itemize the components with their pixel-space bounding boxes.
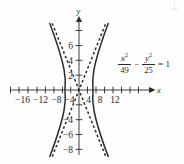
equation-right-fraction: y2 25 (142, 54, 155, 75)
equation-left-denominator: 49 (119, 65, 130, 75)
equation-right-numerator-exponent: 2 (149, 52, 152, 58)
equation-right-denominator: 25 (143, 65, 154, 75)
hyperbola-plot: x y −16 −12 −8 −4 4 8 12 6 4 2 −4 −6 −8 (0, 0, 184, 164)
x-tick-label--16: −16 (15, 95, 30, 105)
scan-artifact (171, 1, 178, 10)
y-tick-label--6: −6 (63, 130, 73, 140)
x-tick-label--8: −8 (51, 95, 61, 105)
y-tick-label-6: 6 (68, 41, 73, 51)
x-tick-label--12: −12 (33, 95, 48, 105)
figure-container: x y −16 −12 −8 −4 4 8 12 6 4 2 −4 −6 −8 … (0, 0, 184, 164)
x-tick-label--4: −4 (64, 95, 74, 105)
equation-left-numerator: x2 (120, 54, 129, 64)
hyperbola-equation-annotation: x2 49 − y2 25 = 1 (117, 54, 170, 75)
y-tick-label--4: −4 (63, 115, 73, 125)
axes-group (10, 16, 156, 155)
x-axis-name-label: x (156, 85, 161, 95)
y-axis-arrowhead (76, 16, 82, 22)
y-tick-label-4: 4 (68, 56, 73, 66)
x-axis-arrowhead (149, 87, 156, 93)
y-axis-name-label: y (76, 6, 81, 16)
x-tick-label-4: 4 (86, 95, 91, 105)
x-tick-label-12: 12 (110, 95, 120, 105)
x-tick-labels: −16 −12 −8 −4 4 8 12 (15, 95, 120, 105)
equation-left-fraction: x2 49 (118, 54, 131, 75)
equation-operator: − (134, 59, 139, 69)
x-tick-label-8: 8 (98, 95, 103, 105)
equation-left-numerator-exponent: 2 (125, 52, 128, 58)
y-tick-label-2: 2 (68, 71, 73, 81)
equation-right-numerator: y2 (144, 54, 153, 64)
equation-equals-one: = 1 (158, 59, 170, 69)
y-tick-label--8: −8 (63, 145, 73, 155)
